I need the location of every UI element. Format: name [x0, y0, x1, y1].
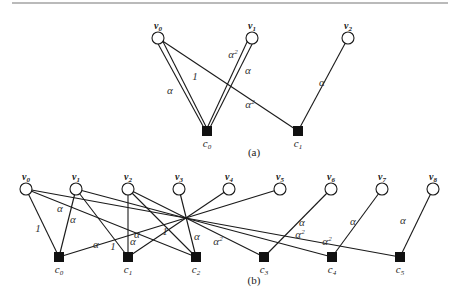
- check-node-label: c0: [55, 263, 64, 277]
- variable-node-v2: [342, 32, 354, 44]
- check-node-c5: [395, 252, 405, 262]
- edge-weight-label: α: [245, 64, 251, 76]
- panel-a-caption: (a): [248, 146, 261, 159]
- edges: α1α2αα2α: [156, 37, 348, 132]
- check-node-c2: [191, 252, 201, 262]
- variable-node-label: v1: [248, 20, 256, 33]
- edge-v3-c2: [179, 189, 196, 257]
- edge-weight-label: α: [194, 230, 200, 242]
- edge-weight-label: α2: [228, 48, 238, 60]
- check-node-label: c5: [396, 263, 405, 277]
- edge-weight-label: α: [299, 216, 305, 228]
- variable-node-label: v6: [327, 171, 335, 184]
- edge-weight-label: α2: [322, 235, 332, 247]
- variable-node-label: v8: [429, 171, 437, 184]
- edge-weight-label: α: [93, 238, 99, 250]
- edge-v2-c3: [128, 189, 264, 257]
- edge-weight-label: α2: [213, 235, 223, 247]
- variable-node-v6: [325, 183, 337, 195]
- variable-node-v1: [70, 183, 82, 195]
- edge-v7-c4: [332, 189, 382, 257]
- variable-node-v0: [20, 183, 32, 195]
- variable-node-v7: [376, 183, 388, 195]
- edge-weight-label: α: [167, 84, 173, 96]
- panel-b-caption: (b): [248, 274, 261, 287]
- panel-b-graph: 1αα2α1α2α1α2ααααααv0v1v2v3v4v5v6v7v8c0c1…: [20, 171, 439, 277]
- variable-node-v2: [122, 183, 134, 195]
- edge-weight-label: α: [70, 213, 76, 225]
- check-node-label: c3: [260, 263, 269, 277]
- variable-node-label: v7: [378, 171, 386, 184]
- variable-node-v0: [152, 32, 164, 44]
- check-node-c4: [327, 252, 337, 262]
- variable-node-label: v4: [225, 171, 233, 184]
- check-node-c3: [259, 252, 269, 262]
- tanner-graph-figure: α1α2αα2αv0v1v2c0c1 (a) 1αα2α1α2α1α2ααααα…: [0, 0, 459, 298]
- edge-weight-label: α2: [245, 98, 255, 110]
- check-node-label: c1: [294, 137, 302, 151]
- edge-weight-label: α: [350, 215, 356, 227]
- edge-weight-label: α: [319, 76, 325, 88]
- check-node-label: c2: [192, 263, 201, 277]
- check-node-label: c0: [203, 137, 212, 151]
- variable-node-v1: [246, 32, 258, 44]
- variable-node-v8: [427, 183, 439, 195]
- variable-node-label: v3: [175, 171, 183, 184]
- variable-node-label: v2: [344, 20, 352, 33]
- check-node-c0: [202, 126, 212, 136]
- check-node-c1: [293, 126, 303, 136]
- edge-weight-label: 1: [192, 70, 198, 82]
- edge-weight-label: α: [57, 202, 63, 214]
- edge-weight-label: α: [400, 214, 406, 226]
- variable-node-v5: [274, 183, 286, 195]
- variable-node-label: v2: [124, 171, 132, 184]
- edge-v1-c1: [76, 189, 128, 257]
- variable-node-v4: [223, 183, 235, 195]
- variable-node-label: v0: [154, 20, 162, 33]
- edge-weight-label: 1: [35, 222, 41, 234]
- edge-weight-label: α2: [295, 228, 305, 240]
- check-node-c1: [123, 252, 133, 262]
- edge-v2-c2: [128, 189, 196, 257]
- check-node-label: c1: [124, 263, 132, 277]
- variable-node-label: v5: [276, 171, 284, 184]
- variable-node-label: v0: [22, 171, 30, 184]
- variable-node-v3: [173, 183, 185, 195]
- edges: 1αα2α1α2α1α2αααααα: [26, 189, 433, 257]
- variable-node-label: v1: [72, 171, 80, 184]
- edge-weight-label: 1: [110, 240, 116, 252]
- check-node-c0: [54, 252, 64, 262]
- edge-v6-c3: [264, 189, 331, 257]
- check-node-label: c4: [328, 263, 337, 277]
- edge-v0-c0: [26, 189, 59, 257]
- panel-a-graph: α1α2αα2αv0v1v2c0c1: [152, 20, 354, 151]
